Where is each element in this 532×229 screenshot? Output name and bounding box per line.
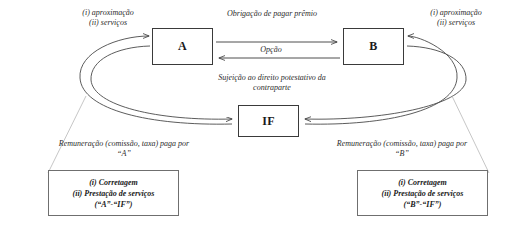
callout-box-right: (i) Corretagem (ii) Prestação de serviço… [357, 170, 488, 216]
edge-label-remuneracao-right: Remuneração (comissão, taxa) paga por “B… [322, 139, 482, 159]
edge-label-right-services-line1: (i) aproximação [404, 8, 508, 18]
node-label-if: IF [262, 114, 275, 129]
edge-label-opcao: Opção [248, 45, 294, 55]
node-box-b: B [343, 28, 404, 65]
diagram-canvas: A B IF (i) aproximação (ii) serviços (i)… [0, 0, 532, 229]
leader-line-left [48, 96, 86, 173]
edge-label-left-services-line2: (ii) serviços [56, 18, 160, 28]
edge-label-right-services-line2: (ii) serviços [404, 18, 508, 28]
callout-box-left: (i) Corretagem (ii) Prestação de serviço… [48, 170, 179, 216]
edge-label-remuneracao-left-line2: “A” [48, 149, 200, 159]
edge-label-left-services-line1: (i) aproximação [56, 8, 160, 18]
callout-right-line2: (ii) Prestação de serviços [382, 188, 464, 199]
leader-line-right [452, 96, 489, 173]
edge-label-left-services: (i) aproximação (ii) serviços [56, 8, 160, 28]
edge-label-sujeicao-line2: contraparte [196, 83, 348, 93]
callout-left-line3: (“A”-“IF”) [95, 199, 133, 210]
edge-label-sujeicao-line1: Sujeição ao direito potestativo da [196, 73, 348, 83]
edge-label-sujeicao: Sujeição ao direito potestativo da contr… [196, 73, 348, 93]
edge-label-remuneracao-left: Remuneração (comissão, taxa) paga por “A… [48, 139, 200, 159]
edge-label-remuneracao-right-line1: Remuneração (comissão, taxa) paga por [322, 139, 482, 149]
edge-label-remuneracao-right-line2: “B” [322, 149, 482, 159]
node-label-a: A [178, 39, 187, 54]
edge-label-premio: Obrigação de pagar prêmio [192, 9, 352, 19]
callout-right-line3: (“B”-“IF”) [404, 199, 442, 210]
node-label-b: B [369, 39, 377, 54]
callout-left-line1: (i) Corretagem [89, 177, 138, 188]
callout-right-line1: (i) Corretagem [398, 177, 447, 188]
callout-left-line2: (ii) Prestação de serviços [73, 188, 155, 199]
edge-label-remuneracao-left-line1: Remuneração (comissão, taxa) paga por [48, 139, 200, 149]
node-box-a: A [152, 28, 213, 65]
edge-label-right-services: (i) aproximação (ii) serviços [404, 8, 508, 28]
node-box-if: IF [238, 105, 299, 137]
